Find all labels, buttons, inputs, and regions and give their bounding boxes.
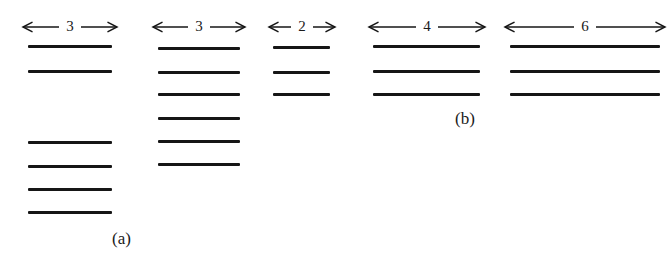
line-segment xyxy=(510,70,660,73)
dimension-group-3: 2 xyxy=(268,0,336,260)
line-segment xyxy=(28,211,112,214)
line-segment xyxy=(273,93,330,96)
dimension-label-3: 2 xyxy=(268,19,336,34)
line-segment xyxy=(373,45,480,48)
line-segment xyxy=(28,70,112,73)
line-segment xyxy=(510,45,660,48)
dimension-label-4: 4 xyxy=(368,19,486,34)
dimension-label-5: 6 xyxy=(504,19,666,34)
line-segment xyxy=(158,117,240,120)
line-segment xyxy=(158,47,240,50)
line-segment xyxy=(158,71,240,74)
line-segment xyxy=(373,70,480,73)
panel-label-b: (b) xyxy=(455,110,475,127)
line-segment xyxy=(373,93,480,96)
dimension-group-4: 4 xyxy=(368,0,486,260)
panel-label-a: (a) xyxy=(112,230,131,247)
line-segment xyxy=(273,71,330,74)
line-segment xyxy=(28,45,112,48)
figure-canvas: 33246(a)(b) xyxy=(0,0,670,260)
line-segment xyxy=(510,93,660,96)
dimension-label-1: 3 xyxy=(22,19,118,34)
line-segment xyxy=(273,46,330,49)
line-segment xyxy=(158,93,240,96)
dimension-group-1: 3 xyxy=(22,0,118,260)
line-segment xyxy=(28,188,112,191)
dimension-label-2: 3 xyxy=(152,19,246,34)
line-segment xyxy=(28,165,112,168)
line-segment xyxy=(158,140,240,143)
line-segment xyxy=(28,141,112,144)
dimension-group-2: 3 xyxy=(152,0,246,260)
dimension-group-5: 6 xyxy=(504,0,666,260)
line-segment xyxy=(158,163,240,166)
